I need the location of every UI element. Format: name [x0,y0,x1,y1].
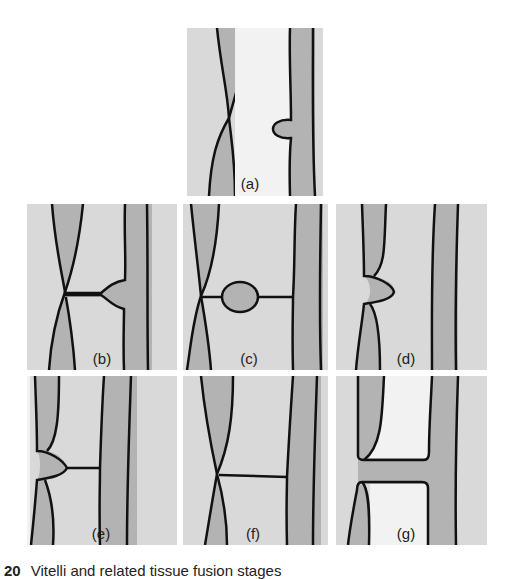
panel-g-diagram [336,376,487,545]
panel-f: (f) [183,376,328,545]
panel-f-diagram [183,376,328,545]
panel-g-label: (g) [386,525,426,542]
panel-a-label: (a) [230,175,270,192]
panel-e: (e) [27,376,177,545]
panel-e-diagram [27,376,177,545]
panel-b-diagram [27,204,177,370]
panel-c-diagram [183,204,328,370]
panel-d: (d) [336,204,487,370]
panel-b-label: (b) [82,350,122,367]
panel-a: (a) [187,28,323,196]
figure-caption: 20Vitelli and related tissue fusion stag… [4,562,281,579]
panel-c: (c) [183,204,328,370]
panel-b: (b) [27,204,177,370]
panel-e-label: (e) [81,525,121,542]
panel-d-diagram [336,204,487,370]
panel-g: (g) [336,376,487,545]
panel-f-label: (f) [233,525,273,542]
panel-a-diagram [187,28,323,196]
panel-c-label: (c) [229,350,269,367]
figure-number: 20 [4,562,21,579]
panel-d-label: (d) [386,350,426,367]
figure-caption-text: Vitelli and related tissue fusion stages [31,562,282,579]
